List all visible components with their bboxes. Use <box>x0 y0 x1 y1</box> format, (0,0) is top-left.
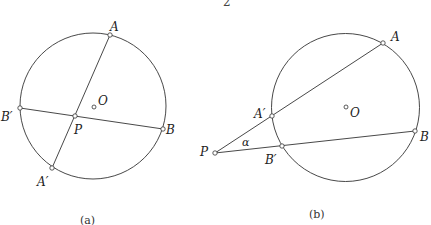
label-o: O <box>98 94 108 108</box>
label-a-prime: A′ <box>253 107 266 121</box>
point-b-prime-marker <box>280 144 284 148</box>
label-b: B <box>419 130 429 144</box>
label-a-prime: A′ <box>36 175 49 189</box>
caption-a: (a) <box>80 214 95 225</box>
figure-a: A B′ B P A′ O (a) <box>0 20 175 225</box>
label-b: B <box>165 123 175 137</box>
figure-b: A A′ B B′ P O α (b) <box>199 30 429 221</box>
caption-b: (b) <box>309 208 325 221</box>
point-p-marker <box>73 114 77 118</box>
center-o-marker <box>344 105 348 109</box>
geometry-figure: 2 A B′ B P A′ O (a) <box>0 0 431 225</box>
point-b-marker <box>161 127 165 131</box>
point-a-prime-marker <box>50 166 54 170</box>
label-a: A <box>390 30 400 44</box>
label-p: P <box>199 145 209 159</box>
secant-pa <box>215 43 383 153</box>
label-angle-alpha: α <box>242 136 250 149</box>
center-o-marker <box>92 105 96 109</box>
point-a-marker <box>381 41 385 45</box>
figure-stage: 2 A B′ B P A′ O (a) <box>0 0 431 225</box>
label-p: P <box>73 123 83 137</box>
page-number: 2 <box>223 0 231 9</box>
point-a-prime-marker <box>270 114 274 118</box>
point-b-prime-marker <box>18 106 22 110</box>
label-a: A <box>109 20 119 34</box>
label-b-prime: B′ <box>264 153 277 167</box>
point-p-marker <box>213 151 217 155</box>
label-o: O <box>350 106 360 120</box>
point-b-marker <box>413 129 417 133</box>
chord-bb-prime <box>20 108 163 129</box>
label-b-prime: B′ <box>0 110 13 124</box>
